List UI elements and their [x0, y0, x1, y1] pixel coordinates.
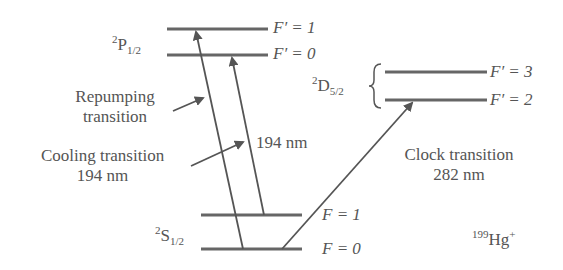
cooling-label: Cooling transition 194 nm: [20, 147, 185, 184]
label-d-f2: F′ = 2: [490, 91, 533, 108]
label-p-f1: F′ = 1: [273, 19, 316, 36]
state-label-d52: 2D5/2: [312, 75, 344, 97]
repump-label: Repumping transition: [60, 88, 170, 125]
label-s-f1: F = 1: [322, 206, 361, 223]
repump-pointer-arrow: [173, 98, 203, 111]
clock-label: Clock transition 282 nm: [384, 146, 534, 183]
cooling-pointer-arrow: [191, 142, 243, 166]
label-d-f3: F′ = 3: [490, 63, 533, 80]
ion-label: 199Hg+: [472, 229, 516, 248]
state-label-s12: 2S1/2: [155, 225, 184, 247]
label-p-f0: F′ = 0: [273, 45, 316, 62]
state-label-p12: 2P1/2: [112, 34, 141, 56]
mid-wavelength-label: 194 nm: [256, 134, 307, 151]
label-s-f0: F = 0: [322, 240, 361, 257]
d-level-brace: [369, 64, 381, 108]
